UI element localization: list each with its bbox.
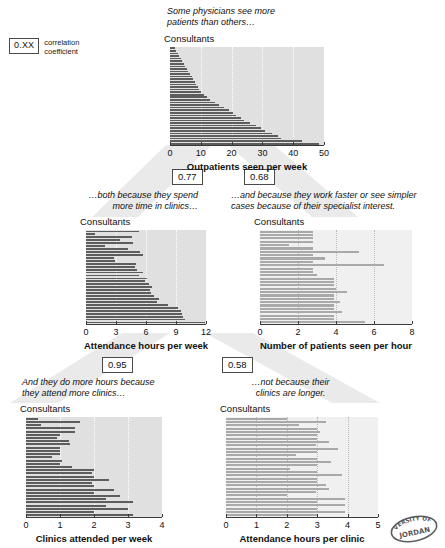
bar [86,239,120,241]
bar [86,289,150,291]
caption-mid-right: …and because they work faster or see sim… [231,190,443,213]
bar [226,428,317,430]
x-axis-title: Number of patients seen per hour [260,340,412,351]
bar [226,491,316,493]
bar [86,307,178,309]
x-axis-tick-label: 0 [83,327,88,337]
bar [26,431,75,433]
bar [170,47,175,49]
bar [260,247,313,249]
bar [226,451,317,453]
bar [170,60,182,62]
x-axis-tick-label: 40 [288,148,298,158]
bar [170,73,190,75]
x-axis-tick [336,321,337,324]
x-axis-tick-label: 3 [113,327,118,337]
bar [170,135,278,137]
bar [170,81,195,83]
bar [260,288,336,290]
bar [170,125,256,127]
bar [86,313,182,315]
bar [170,86,198,88]
bar [86,254,143,256]
x-axis-tick [324,142,325,145]
bar [26,466,72,468]
x-axis-tick [201,142,202,145]
caption-mid-left: …both because they spend more time in cl… [40,190,198,213]
bar [26,489,114,491]
legend-caption-line2: coefficient [44,48,79,57]
x-axis-tick-label: 6 [143,327,148,337]
bar [226,418,287,420]
x-axis-line [26,517,162,518]
bar [86,263,136,265]
infographic-canvas: 0.XX correlation coefficient Some physic… [0,0,445,548]
bar [260,261,313,263]
bar [86,251,140,253]
x-axis-tick-label: 3 [315,520,320,530]
legend-value: 0.XX [9,38,39,54]
bar [226,488,329,490]
bar [170,50,176,52]
bar [86,257,114,259]
bar [86,286,152,288]
x-axis-tick [162,514,163,517]
x-axis-tick-label: 0 [257,327,262,337]
bar [226,498,345,500]
gridline [348,417,349,517]
plot-area [226,417,378,517]
bar [86,292,151,294]
bar [260,294,334,296]
bar [226,448,338,450]
bar [26,479,109,481]
x-axis-tick-label: 3 [125,520,130,530]
x-axis-tick [374,321,375,324]
bar [86,266,135,268]
x-axis-tick [232,142,233,145]
bar [226,484,326,486]
bar [260,234,313,236]
chart-ylabel: Consultants [254,216,304,227]
x-axis-tick-label: 4 [345,520,350,530]
bar [86,278,147,280]
bar [170,140,302,142]
bar [86,280,145,282]
chart-ylabel: Consultants [220,403,270,414]
bar [226,508,317,510]
x-axis-tick [128,514,129,517]
bar [86,231,139,233]
university-watermark-logo: VERSITY OF JORDAN [385,512,443,546]
x-axis-tick [206,321,207,324]
bar [26,418,38,420]
x-axis-tick-label: 1 [254,520,259,530]
x-axis-tick [287,514,288,517]
caption-bottom-right: …not because their clinics are longer. [223,377,358,400]
x-axis-tick [348,514,349,517]
bar [226,501,317,503]
x-axis-line [226,517,378,518]
bar [26,501,133,503]
bar [86,242,133,244]
bar [86,248,128,250]
x-axis-line [170,145,324,146]
bar [26,453,60,455]
x-axis-tick-label: 6 [371,327,376,337]
x-axis-tick-label: 20 [227,148,237,158]
bar [26,450,60,452]
x-axis-line [86,324,206,325]
bar [26,434,60,436]
chart-patients-seen-per-hour: Consultants02468Number of patients seen … [248,216,428,342]
bar [260,284,334,286]
x-axis-tick [60,514,61,517]
plot-area [260,230,412,324]
bar [86,236,132,238]
bar [170,55,179,57]
bar [26,511,94,513]
bar [26,485,94,487]
bar [86,272,143,274]
bar [26,427,75,429]
chart-ylabel: Consultants [164,33,214,44]
bar [226,504,345,506]
bar [260,254,313,256]
bar [226,431,320,433]
